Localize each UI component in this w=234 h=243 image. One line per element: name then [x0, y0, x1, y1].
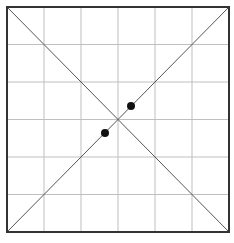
- point-marker: [127, 102, 135, 110]
- grid-diagram: [0, 0, 234, 243]
- point-marker: [101, 129, 109, 137]
